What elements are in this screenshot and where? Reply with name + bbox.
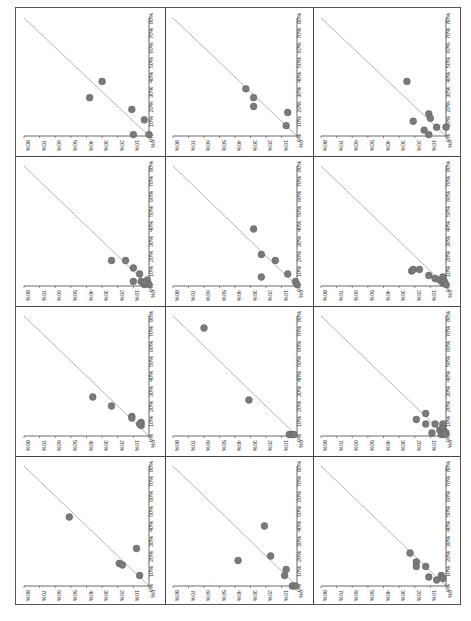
y-tick-label: 60%: [148, 341, 154, 352]
y-tick-label: 20%: [148, 101, 154, 112]
y-tick-label: 60%: [148, 191, 154, 202]
x-tick-label: 30%: [252, 590, 258, 601]
y-tick-label: 50%: [445, 506, 451, 517]
y-tick-label: 40%: [148, 371, 154, 382]
data-point: [136, 572, 143, 579]
scatter-panel-r3c1: 0%10%20%30%40%50%60%70%80%0%10%20%30%40%…: [165, 456, 313, 606]
reference-diagonal-line: [173, 466, 297, 586]
scatter-panel-r1c0: 0%10%20%30%40%50%60%70%80%0%10%20%30%40%…: [16, 156, 165, 306]
data-point: [141, 280, 148, 287]
x-tick-label: 30%: [103, 590, 109, 601]
y-tick-label: 30%: [148, 236, 154, 247]
data-point: [261, 523, 268, 530]
x-tick-label: 30%: [252, 440, 258, 451]
data-point: [130, 131, 137, 138]
x-tick-label: 40%: [88, 140, 94, 151]
y-tick-label: 20%: [445, 401, 451, 412]
x-tick-label: 70%: [190, 140, 196, 151]
x-tick-label: 30%: [252, 290, 258, 301]
data-point: [443, 124, 450, 131]
y-tick-label: 40%: [445, 521, 451, 532]
data-point: [422, 563, 429, 570]
y-tick-label: 80%: [148, 311, 154, 322]
x-tick-label: 80%: [174, 290, 180, 301]
data-point: [291, 431, 298, 438]
y-tick-label: 60%: [296, 341, 302, 352]
y-tick-label: 80%: [296, 311, 302, 322]
data-point: [422, 410, 429, 417]
scatter-plot-grid: 0%10%20%30%40%50%60%70%80%0%10%20%30%40%…: [15, 7, 461, 605]
y-tick-label: 70%: [445, 326, 451, 337]
scatter-panel-r1c2: 0%10%20%30%40%50%60%70%80%0%10%20%30%40%…: [313, 156, 462, 306]
y-tick-label: 20%: [445, 251, 451, 262]
data-point: [141, 116, 148, 123]
x-tick-label: 10%: [134, 440, 140, 451]
reference-diagonal-line: [321, 316, 446, 436]
y-tick-label: 80%: [445, 13, 451, 24]
x-tick-label: 20%: [119, 140, 125, 151]
x-tick-label: 50%: [369, 140, 375, 151]
y-tick-label: 40%: [445, 371, 451, 382]
data-point: [128, 106, 135, 113]
data-point: [427, 115, 434, 122]
scatter-panel-r1c1: 0%10%20%30%40%50%60%70%80%0%10%20%30%40%…: [165, 156, 313, 306]
data-point: [89, 394, 96, 401]
x-tick-label: 80%: [322, 440, 328, 451]
y-tick-label: 50%: [445, 206, 451, 217]
y-tick-label: 60%: [296, 491, 302, 502]
x-tick-label: 70%: [190, 440, 196, 451]
x-tick-label: 80%: [322, 140, 328, 151]
y-tick-label: 50%: [148, 506, 154, 517]
data-point: [108, 257, 115, 264]
y-tick-label: 10%: [445, 566, 451, 577]
data-point: [146, 131, 153, 138]
data-point: [128, 415, 135, 422]
data-point: [433, 124, 440, 131]
data-point: [425, 131, 432, 138]
x-tick-label: 30%: [400, 140, 406, 151]
y-tick-label: 0%: [148, 584, 154, 592]
x-tick-label: 10%: [431, 290, 437, 301]
y-tick-label: 60%: [148, 491, 154, 502]
data-point: [425, 574, 432, 581]
x-tick-label: 20%: [267, 590, 273, 601]
x-tick-label: 70%: [190, 290, 196, 301]
y-tick-label: 10%: [296, 566, 302, 577]
x-tick-label: 10%: [283, 440, 289, 451]
x-tick-label: 20%: [416, 590, 422, 601]
data-point: [130, 265, 137, 272]
x-tick-label: 80%: [174, 590, 180, 601]
data-point: [246, 397, 253, 404]
y-tick-label: 30%: [148, 536, 154, 547]
data-point: [250, 94, 257, 101]
y-tick-label: 70%: [148, 28, 154, 39]
data-point: [136, 271, 143, 278]
x-tick-label: 20%: [267, 290, 273, 301]
x-tick-label: 80%: [322, 290, 328, 301]
y-tick-label: 40%: [148, 72, 154, 83]
y-tick-label: 60%: [445, 191, 451, 202]
data-point: [250, 103, 257, 110]
x-tick-label: 10%: [134, 590, 140, 601]
x-tick-label: 70%: [338, 140, 344, 151]
x-tick-label: 40%: [385, 290, 391, 301]
x-tick-label: 40%: [236, 290, 242, 301]
x-tick-label: 30%: [400, 590, 406, 601]
x-tick-label: 20%: [119, 440, 125, 451]
x-tick-label: 80%: [25, 140, 31, 151]
x-tick-label: 20%: [267, 140, 273, 151]
y-tick-label: 40%: [445, 221, 451, 232]
y-tick-label: 40%: [148, 521, 154, 532]
y-tick-label: 50%: [296, 356, 302, 367]
x-tick-label: 10%: [283, 290, 289, 301]
scatter-panel-r0c2: 0%10%20%30%40%50%60%70%80%0%10%20%30%40%…: [313, 8, 462, 156]
y-tick-label: 20%: [296, 401, 302, 412]
data-point: [425, 272, 432, 279]
y-tick-label: 60%: [445, 341, 451, 352]
x-tick-label: 10%: [283, 140, 289, 151]
data-point: [201, 325, 208, 332]
x-tick-label: 10%: [283, 590, 289, 601]
x-tick-label: 80%: [174, 440, 180, 451]
y-tick-label: 50%: [148, 206, 154, 217]
x-tick-label: 50%: [72, 440, 78, 451]
